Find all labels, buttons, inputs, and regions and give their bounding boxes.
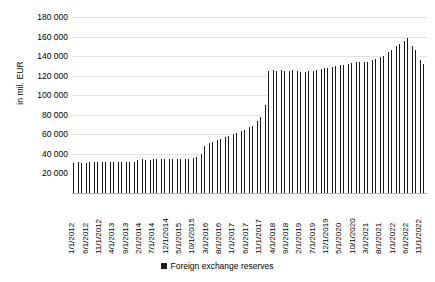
x-tick-label: 6/1/2022 [402,223,410,254]
x-tick-label: 11/1/2012 [95,219,103,254]
x-tick-label: 4/1/2018 [269,223,277,254]
legend-label: Foreign exchange reserves [170,261,273,271]
x-tick-label: 12/1/2014 [162,218,170,254]
x-tick-label: 6/1/2012 [82,223,90,254]
y-tick-label: 180 000 [10,13,68,21]
x-tick-label: 4/1/2013 [108,223,116,254]
x-tick-label: 10/1/2015 [188,218,196,254]
y-tick-label: 40 000 [10,150,68,158]
x-tick-label: 9/1/2018 [282,223,290,254]
y-tick-label: 140 000 [10,52,68,60]
x-tick-label: 12/1/2019 [322,218,330,254]
x-tick-label: 1/1/2022 [389,223,397,254]
x-tick-label: 5/1/2015 [175,223,183,254]
y-axis-tick-labels: 20 00040 00060 00080 000100 000120 00014… [8,0,68,282]
x-tick-label: 8/1/2016 [215,223,223,254]
x-tick-label: 5/1/2020 [335,223,343,254]
x-tick-label: 1/1/2017 [228,223,236,254]
x-tick-label: 2/1/2014 [135,223,143,254]
chart-container: in mil. EUR 20 00040 00060 00080 000100 … [0,0,435,282]
x-tick-label: 6/1/2017 [242,223,250,254]
legend: Foreign exchange reserves [0,261,435,271]
y-tick-label: 160 000 [10,33,68,41]
x-tick-label: 8/1/2021 [375,223,383,254]
x-tick-label: 7/1/2019 [309,223,317,254]
x-tick-label: 9/1/2013 [122,223,130,254]
y-tick-label: 20 000 [10,169,68,177]
x-tick-label: 2/1/2019 [295,223,303,254]
bar [425,65,428,193]
x-tick-label: 3/1/2021 [362,223,370,254]
x-tick-label: 7/1/2014 [148,223,156,254]
x-tick-label: 3/1/2016 [202,223,210,254]
y-tick-label: 120 000 [10,72,68,80]
x-tick-label: 10/1/2020 [349,218,357,254]
x-tick-label: 11/1/2022 [415,219,423,254]
y-tick-label: 80 000 [10,111,68,119]
x-tick-label: 11/1/2017 [255,219,263,254]
x-tick-label: 1/1/2012 [68,223,76,254]
legend-swatch-icon [161,263,167,269]
bar-series [72,17,427,193]
plot-area [72,17,427,194]
y-tick-label: 60 000 [10,130,68,138]
x-axis-tick-labels: 1/1/20126/1/201211/1/20124/1/20139/1/201… [72,196,427,254]
y-tick-label: 100 000 [10,91,68,99]
